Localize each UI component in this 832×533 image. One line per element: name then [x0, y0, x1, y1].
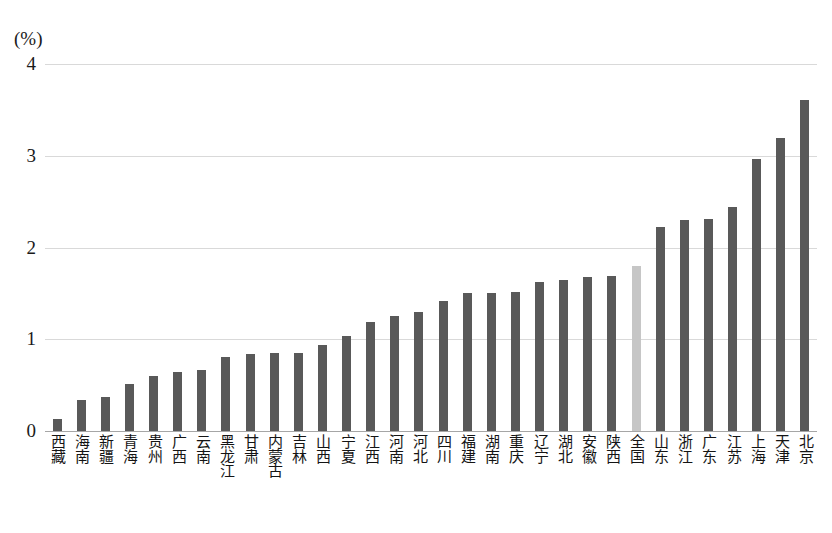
x-axis-label: 河南 — [387, 434, 402, 463]
bar — [439, 301, 448, 431]
x-axis-label: 海南 — [74, 434, 89, 463]
x-axis-label: 辽宁 — [532, 434, 547, 463]
bar — [366, 322, 375, 431]
x-axis-label: 河北 — [411, 434, 426, 463]
x-axis-label: 青海 — [122, 434, 137, 463]
bar — [53, 419, 62, 431]
bar — [125, 384, 134, 431]
x-axis-label: 吉林 — [291, 434, 306, 463]
bar — [270, 353, 279, 431]
x-axis-label: 宁夏 — [339, 434, 354, 463]
bar — [390, 316, 399, 431]
bar — [487, 293, 496, 431]
x-axis-label: 广东 — [701, 434, 716, 463]
x-axis-label: 湖南 — [484, 434, 499, 463]
y-axis-tick-1: 1 — [27, 329, 37, 348]
bar — [173, 372, 182, 431]
x-axis-label: 北京 — [797, 434, 812, 463]
bar — [704, 219, 713, 431]
x-axis-label: 云南 — [194, 434, 209, 463]
bar — [776, 138, 785, 431]
gridline-0 — [45, 431, 817, 432]
x-axis-label: 上海 — [749, 434, 764, 463]
bar — [342, 336, 351, 431]
bar — [680, 220, 689, 431]
x-axis-label: 全国 — [629, 434, 644, 463]
x-axis-label: 广西 — [170, 434, 185, 463]
bar — [246, 354, 255, 431]
bar — [77, 400, 86, 431]
plot-area: 01234 — [45, 64, 817, 431]
bar — [583, 277, 592, 431]
y-axis-tick-0: 0 — [27, 421, 37, 440]
x-axis-label: 甘肃 — [243, 434, 258, 463]
x-axis-label: 贵州 — [146, 434, 161, 463]
bars-container — [45, 64, 817, 431]
bar — [414, 312, 423, 431]
bar — [632, 266, 641, 431]
y-axis-tick-3: 3 — [27, 145, 37, 164]
bar — [463, 293, 472, 431]
x-axis-label: 浙江 — [677, 434, 692, 463]
x-axis-label: 内蒙古 — [267, 434, 282, 478]
x-axis-label: 福建 — [460, 434, 475, 463]
bar — [294, 353, 303, 431]
y-axis-unit-label: (%) — [14, 28, 42, 50]
y-axis-tick-4: 4 — [27, 54, 37, 73]
bar — [511, 292, 520, 431]
x-axis-label: 湖北 — [556, 434, 571, 463]
bar — [101, 397, 110, 431]
bar — [221, 357, 230, 431]
bar — [752, 159, 761, 431]
x-axis-label: 重庆 — [508, 434, 523, 463]
x-axis-label: 山西 — [315, 434, 330, 463]
x-axis-label: 西藏 — [50, 434, 65, 463]
bar — [607, 276, 616, 431]
bar — [728, 207, 737, 431]
bar-chart: (%) 01234 西藏海南新疆青海贵州广西云南黑龙江甘肃内蒙古吉林山西宁夏江西… — [0, 0, 832, 533]
x-axis-label: 陕西 — [604, 434, 619, 463]
x-axis-label: 新疆 — [98, 434, 113, 463]
bar — [535, 282, 544, 431]
bar — [656, 227, 665, 431]
bar — [800, 100, 809, 431]
x-axis-labels: 西藏海南新疆青海贵州广西云南黑龙江甘肃内蒙古吉林山西宁夏江西河南河北四川福建湖南… — [45, 434, 817, 533]
bar — [559, 280, 568, 431]
x-axis-label: 山东 — [653, 434, 668, 463]
x-axis-label: 江西 — [363, 434, 378, 463]
x-axis-label: 黑龙江 — [218, 434, 233, 478]
x-axis-label: 江苏 — [725, 434, 740, 463]
bar — [149, 376, 158, 431]
bar — [197, 370, 206, 431]
x-axis-label: 天津 — [773, 434, 788, 463]
bar — [318, 345, 327, 431]
x-axis-label: 安徽 — [580, 434, 595, 463]
y-axis-tick-2: 2 — [27, 237, 37, 256]
x-axis-label: 四川 — [436, 434, 451, 463]
